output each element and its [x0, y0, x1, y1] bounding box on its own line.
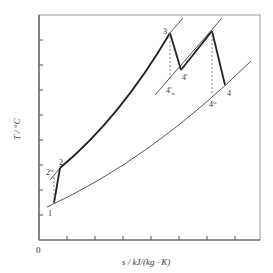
point-3-label: 3	[163, 27, 167, 36]
compression-1-2	[54, 168, 60, 203]
low-pressure-isobar	[47, 61, 251, 207]
high-pressure-isobar	[50, 18, 183, 180]
expansion-peak-4	[212, 31, 225, 85]
plot-frame	[39, 15, 260, 240]
heat-addition-2-3	[60, 33, 170, 168]
point-1-label: 1	[48, 209, 52, 218]
cycle-processes	[54, 31, 225, 203]
ts-diagram: 0 s / kJ/(kg · K) T / °C 1 2 2is 3 4' 4'…	[0, 0, 273, 273]
origin-label: 0	[36, 245, 41, 255]
point-4prime-label: 4'	[182, 73, 188, 82]
point-4prime-is-label: 4'is	[166, 86, 175, 96]
reheat-4prime-peak	[181, 31, 212, 70]
point-2-label: 2	[59, 158, 63, 167]
x-axis-label: s / kJ/(kg · K)	[122, 257, 170, 267]
expansion-3-4prime	[170, 33, 181, 70]
point-4is-label: 4is	[209, 100, 216, 109]
y-axis-label: T / °C	[12, 118, 22, 140]
point-2is-label: 2is	[46, 168, 53, 177]
point-4-label: 4	[227, 89, 231, 98]
